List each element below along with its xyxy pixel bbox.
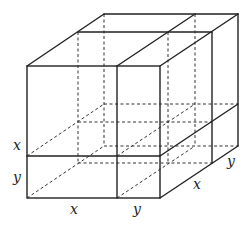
hidden-edges — [27, 14, 238, 198]
label-left-lower: y — [12, 169, 22, 185]
bottom-left-depth-edge — [27, 146, 104, 198]
label-bottom-right: y — [132, 201, 142, 217]
bottom-divider-depth-edge — [117, 146, 195, 198]
label-depth-back: y — [226, 153, 236, 169]
label-left-upper: x — [13, 137, 21, 153]
top-left-depth-edge — [27, 14, 104, 66]
dimension-labels: x y x y x y — [12, 137, 236, 217]
top-divider-depth-edge — [117, 14, 195, 66]
right-split-depth-edge — [160, 104, 238, 156]
front-face — [27, 66, 160, 198]
label-bottom-left: x — [70, 201, 78, 217]
split-left-depth-edge — [27, 104, 104, 156]
top-right-depth-edge — [160, 14, 238, 66]
split-divider-depth-edge — [117, 104, 195, 156]
cube-diagram: x y x y x y — [0, 0, 247, 226]
visible-edges — [27, 14, 238, 198]
label-depth-front: x — [193, 176, 201, 192]
